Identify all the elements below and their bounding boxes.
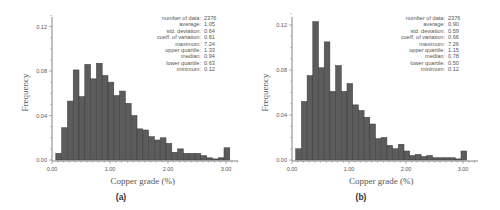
stat-label: average: [179,21,201,27]
histogram-bar [172,152,178,160]
stat-value: 2376 [204,15,216,21]
x-tick-label: 2.00 [401,166,412,172]
histogram-bar [450,158,456,160]
histogram-bar [341,91,347,160]
statistics-summary: number of data:2376average:0.90std. devi… [401,15,461,72]
stat-label: minimum: [177,66,202,72]
panel-caption: (b) [356,192,367,202]
stat-label: maximum: [419,41,445,47]
stat-label: number of data: [162,15,202,21]
stat-value: 0.66 [448,34,459,40]
stat-label: std. deviation: [410,28,445,34]
stat-label: number of data: [406,15,446,21]
histogram-bar [358,111,364,161]
stat-value: 0.94 [204,53,215,59]
y-tick-label: 0.08 [276,67,287,73]
histogram-bar [131,116,137,160]
x-tick-label: 0.00 [47,166,58,172]
y-tick-label: 0.04 [36,113,47,119]
histogram-bar [120,91,126,160]
histogram-bar [96,63,102,160]
histogram-bar [160,138,166,160]
stat-value: 0.50 [448,60,459,66]
histogram-bar [224,148,230,160]
x-tick-label: 0.00 [287,166,298,172]
histogram-bar [79,97,85,160]
histogram-bar [91,79,97,160]
histogram-bar [114,96,120,161]
histogram-bar [353,105,359,160]
x-tick-label: 2.00 [163,166,174,172]
histogram-bar [56,153,62,160]
histogram-bar [433,158,439,160]
y-tick-label: 0.12 [36,24,47,30]
stat-value: 2376 [448,15,460,21]
histogram-bar [207,158,213,160]
histogram-bar [85,64,91,160]
histogram-bar [336,66,342,161]
histogram-bar [421,157,427,160]
histogram-bar [301,102,307,161]
histogram-bar [67,101,73,160]
figure-canvas: 0.000.040.080.120.001.002.003.00Copper g… [0,0,500,210]
histogram-bar [166,143,172,160]
histogram-bar [324,42,330,160]
x-axis-title: Copper grade (%) [111,176,175,186]
stat-value: 7.24 [204,41,215,47]
histogram-bar [370,124,376,160]
histogram-bar [387,145,393,160]
histogram-bar [404,151,410,160]
histogram-bar [108,82,114,160]
histogram-bar [218,158,224,160]
y-axis-title: Frequency [260,73,270,111]
histogram-panel-b: 0.000.040.080.120.001.002.003.00Copper g… [260,14,478,202]
histogram-bar [398,144,404,160]
histogram-bar [154,140,160,160]
histogram-bar [189,153,195,160]
histogram-bar [102,75,108,160]
stat-value: 0.64 [204,28,215,34]
stat-value: 0.12 [448,66,459,72]
histogram-panel-a: 0.000.040.080.120.001.002.003.00Copper g… [20,15,238,202]
stat-value: 0.78 [448,53,459,59]
stat-value: 0.59 [448,28,459,34]
x-tick-label: 3.00 [458,166,469,172]
histogram-bar [444,158,450,160]
stat-value: 7.26 [448,41,459,47]
stat-label: median: [425,53,445,59]
stat-label: average: [423,21,445,27]
stat-label: upper quartile: [409,47,445,53]
histogram-bar [415,154,421,160]
stat-value: 1.15 [448,47,459,53]
histogram-bar [319,68,325,160]
stat-value: 0.61 [204,34,215,40]
histogram-bar [313,22,319,160]
histogram-bar [195,153,201,160]
stat-value: 0.12 [204,66,215,72]
stat-label: upper quartile: [165,47,201,53]
histogram-bar [212,159,218,160]
histogram-bar [376,139,382,160]
histogram-bar [201,156,207,160]
histogram-bar [183,153,189,160]
histogram-bar [125,103,131,160]
histogram-bar [62,128,68,160]
stat-value: 0.90 [448,21,459,27]
y-tick-label: 0.12 [276,22,287,28]
stat-label: std. deviation: [166,28,201,34]
y-tick-label: 0.04 [276,112,287,118]
histogram-bar [149,137,155,160]
histogram-bar [461,151,467,160]
stat-label: minimum: [421,66,446,72]
histogram-bar [410,156,416,161]
histogram-bar [381,138,387,161]
x-tick-label: 3.00 [221,166,232,172]
stat-value: 0.63 [204,60,215,66]
histogram-bar [364,117,370,160]
histogram-bar [455,159,461,160]
stat-label: median: [181,53,201,59]
histogram-bar [143,130,149,160]
histogram-bar [438,158,444,160]
histogram-bar [137,129,143,160]
x-tick-label: 1.00 [105,166,116,172]
